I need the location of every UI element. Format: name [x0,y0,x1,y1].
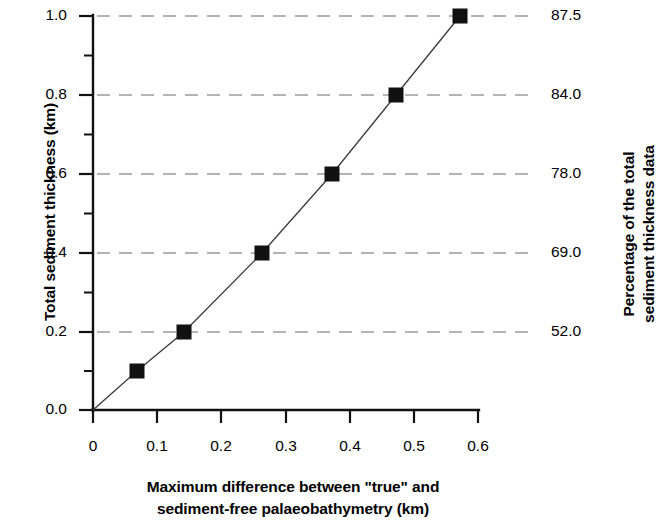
right-axis-tick-label: 78.0 [551,164,581,182]
x-axis-tick-label: 0.5 [389,437,439,455]
right-axis-title-line-1: Percentage of the total [619,44,639,424]
x-axis-major-ticks [93,410,478,423]
data-point-marker [389,88,403,102]
y-axis-minor-ticks [84,56,93,372]
x-axis-title: Maximum difference between "true" and se… [28,476,558,520]
data-markers [130,9,467,378]
right-axis-title-line-2: sediment thickness data [639,44,656,424]
data-point-marker [255,246,269,260]
y-axis-title: Total sediment thickness (km) [41,12,59,412]
right-axis-title: Percentage of the total sediment thickne… [619,44,656,424]
right-axis-tick-label: 84.0 [551,85,581,103]
data-series-line [93,16,460,410]
x-axis-tick-label: 0.2 [196,437,246,455]
right-axis-tick-label: 69.0 [551,243,581,261]
gridlines [97,16,532,332]
x-axis-title-line-2: sediment-free palaeobathymetry (km) [28,498,558,520]
data-point-marker [177,325,191,339]
x-axis-tick-label: 0.3 [261,437,311,455]
right-axis-tick-label: 52.0 [551,322,581,340]
x-axis-tick-label: 0.1 [132,437,182,455]
x-axis-tick-label: 0.4 [325,437,375,455]
data-point-marker [453,9,467,23]
x-axis-tick-label: 0.6 [453,437,503,455]
x-axis-tick-label: 0 [68,437,118,455]
x-axis-title-line-1: Maximum difference between "true" and [28,476,558,498]
data-point-marker [325,167,339,181]
chart-figure: 1.0 0.8 0.6 0.4 0.2 0.0 87.5 84.0 78.0 6… [0,0,656,529]
data-point-marker [130,364,144,378]
right-axis-tick-label: 87.5 [551,6,581,24]
